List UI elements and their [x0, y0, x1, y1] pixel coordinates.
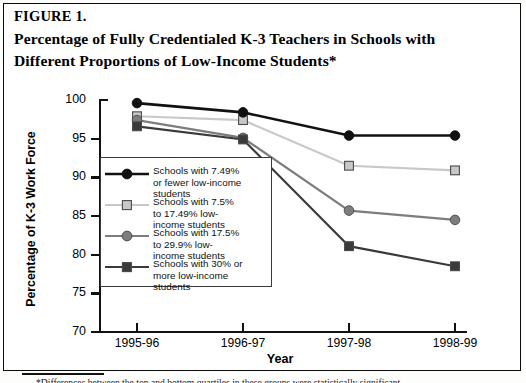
data-point-marker [345, 242, 354, 251]
data-point-marker [239, 135, 248, 144]
legend-item: Schools with 7.49%or fewer low-incomestu… [101, 163, 273, 195]
data-point-marker [344, 206, 354, 216]
legend-label-line: Schools with 7.49% [153, 165, 268, 177]
legend-swatch [101, 194, 153, 224]
data-point-marker [451, 262, 460, 271]
legend-swatch [101, 256, 153, 286]
legend-marker-icon [122, 201, 131, 210]
legend-label-line: Schools with 17.5% [153, 227, 268, 239]
legend-item: Schools with 7.5%to 17.49% low-income st… [101, 194, 273, 226]
legend-swatch [101, 163, 153, 193]
footnote-rule [22, 373, 104, 375]
data-point-marker [450, 131, 460, 141]
series-line [137, 103, 455, 135]
legend-item: Schools with 30% ormore low-incomestuden… [101, 256, 273, 288]
legend-swatch [101, 225, 153, 255]
legend-label-line: more low-income [153, 270, 268, 282]
legend-label-line: Schools with 30% or [153, 258, 268, 270]
legend-marker-icon [122, 169, 132, 179]
legend-label: Schools with 30% ormore low-incomestuden… [153, 256, 268, 293]
chart-legend: Schools with 7.49%or fewer low-incomestu… [100, 157, 272, 287]
data-point-marker [132, 98, 142, 108]
legend-item: Schools with 17.5%to 29.9% low-income st… [101, 225, 273, 257]
data-point-marker [451, 166, 460, 175]
data-point-marker [238, 108, 248, 118]
data-point-marker [344, 131, 354, 141]
data-point-marker [133, 122, 142, 131]
figure-container: FIGURE 1. Percentage of Fully Credential… [0, 0, 526, 383]
legend-label-line: to 29.9% low- [153, 239, 268, 251]
legend-marker-icon [122, 263, 131, 272]
legend-label-line: Schools with 7.5% [153, 196, 268, 208]
legend-label-line: students [153, 281, 268, 293]
data-point-marker [450, 215, 460, 225]
footnote-text: *Differences between the top and bottom … [36, 377, 516, 383]
legend-marker-icon [122, 231, 132, 241]
legend-label-line: to 17.49% low- [153, 208, 268, 220]
data-point-marker [345, 161, 354, 170]
legend-label-line: or fewer low-income [153, 177, 268, 189]
